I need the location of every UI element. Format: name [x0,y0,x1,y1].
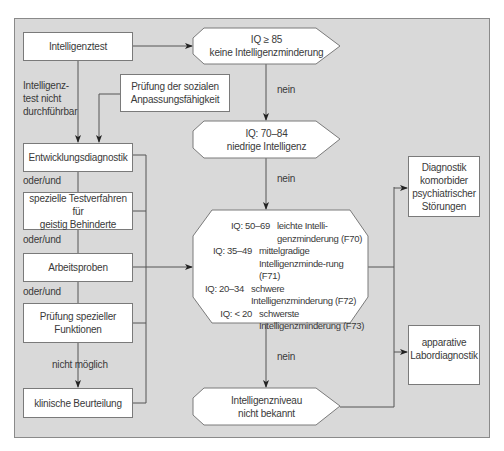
node-line: Prüfung der sozialen [131,80,219,93]
node-work-samples: Arbeitsproben [23,253,133,282]
level-iq: IQ: 35–49 [200,245,259,283]
node-intelligence-test: Intelligenztest [23,32,133,61]
node-line: spezielle Testverfahren für [24,192,132,218]
edge-label-no-2: nein [277,172,295,185]
edge-label-line: test nicht [23,92,83,105]
level-desc: schwere Intelligenzminderung (F72) [251,283,365,308]
node-line: Funktionen [54,323,101,336]
edge-label-no-3: nein [277,350,295,363]
edge-label-no-1: nein [277,83,295,96]
node-line: komorbider [420,174,468,187]
edge-label-or-and-2: oder/und [23,233,61,246]
edge-label-test-not-possible: Intelligenz- test nicht durchführbar [23,79,83,118]
node-line: Störungen [422,200,466,213]
node-line: IQ ≥ 85 [251,33,282,46]
edge-label-or-and-1: oder/und [23,174,61,187]
node-iq-70-84: IQ: 70–84 niedrige Intelligenz [193,121,340,158]
node-lab-diagnostics: apparative Labordiagnostik [408,325,480,385]
node-line: Prüfung spezieller [40,310,116,323]
node-line: niedrige Intelligenz [227,140,306,153]
node-level-unknown: Intelligenzniveau nicht bekannt [193,388,340,425]
level-row-mild: IQ: 50–69 leichte Intelli-genzminderung … [200,220,365,245]
node-line: geistig Behinderte [40,218,116,231]
node-line: keine Intelligenzminderung [210,46,324,59]
node-disability-levels: IQ: 50–69 leichte Intelli-genzminderung … [200,220,365,333]
level-row-profound: IQ: < 20 schwerste Intelligenzminderung … [200,308,365,333]
node-line: Diagnostik [422,161,467,174]
node-line: Anpassungsfähigkeit [131,93,220,106]
level-row-moderate: IQ: 35–49 mittelgradige Intelligenzminde… [200,245,365,283]
node-label: Arbeitsproben [48,261,108,274]
edge-label-not-possible: nicht möglich [52,358,108,371]
edge-label-line: Intelligenz- [23,79,83,92]
level-iq: IQ: 20–34 [200,283,251,308]
node-development-diagnostics: Entwicklungsdiagnostik [23,143,133,172]
node-label: Entwicklungsdiagnostik [29,151,128,164]
node-special-tests: spezielle Testverfahren für geistig Behi… [23,192,133,230]
level-desc: schwerste Intelligenzminderung (F73) [259,308,365,333]
level-desc: mittelgradige Intelligenzminde-rung (F71… [259,245,365,283]
node-intelligence-test-label: Intelligenztest [49,40,107,53]
node-special-functions: Prüfung spezieller Funktionen [23,303,133,343]
level-row-severe: IQ: 20–34 schwere Intelligenzminderung (… [200,283,365,308]
level-iq: IQ: < 20 [200,308,259,333]
node-comorbid-diagnostics: Diagnostik komorbider psychiatrischer St… [408,156,480,217]
node-line: nicht bekannt [238,407,295,420]
node-line: Intelligenzniveau [231,394,302,407]
node-line: Labordiagnostik [410,349,478,362]
edge-label-or-and-3: oder/und [23,285,61,298]
node-line: psychiatrischer [412,187,476,200]
node-clinical-assessment: klinische Beurteilung [23,388,133,418]
node-label: klinische Beurteilung [34,397,122,410]
level-desc: leichte Intelli-genzminderung (F70) [277,220,365,245]
node-line: apparative [422,336,467,349]
level-iq: IQ: 50–69 [200,220,277,245]
node-iq-85: IQ ≥ 85 keine Intelligenzminderung [193,28,340,64]
edge-label-line: durchführbar [23,105,83,118]
node-social-adaptation: Prüfung der sozialen Anpassungsfähigkeit [120,74,230,112]
node-line: IQ: 70–84 [245,127,287,140]
